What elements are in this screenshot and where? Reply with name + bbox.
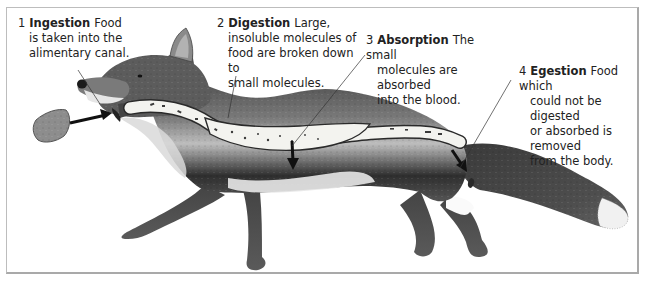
stage-description: into the blood. bbox=[366, 93, 486, 108]
stage-term: Egestion bbox=[530, 64, 586, 78]
stage-description: is taken into the bbox=[18, 31, 130, 46]
stage-description: Food bbox=[94, 16, 122, 30]
stage-description: insoluble molecules of bbox=[217, 31, 357, 46]
stage-description: alimentary canal. bbox=[18, 46, 130, 61]
stage-description: could not be digested bbox=[519, 94, 643, 124]
stage-label-ingestion: 1IngestionFood is taken into the aliment… bbox=[18, 16, 130, 61]
stage-description: small molecules. bbox=[217, 76, 357, 91]
stage-description: or absorbed is removed bbox=[519, 124, 643, 154]
stage-number: 3 bbox=[366, 33, 373, 47]
stage-description: food are broken down to bbox=[217, 46, 357, 76]
stage-description: molecules are absorbed bbox=[366, 63, 486, 93]
stage-number: 4 bbox=[519, 64, 526, 78]
fox-front-legs bbox=[122, 185, 266, 270]
stage-number: 1 bbox=[18, 16, 25, 30]
stage-label-digestion: 2DigestionLarge, insoluble molecules of … bbox=[217, 16, 357, 91]
stage-label-egestion: 4EgestionFood which could not be digeste… bbox=[519, 64, 643, 169]
stage-description: Large, bbox=[294, 16, 330, 30]
stage-term: Digestion bbox=[228, 16, 290, 30]
stage-label-absorption: 3AbsorptionThe small molecules are absor… bbox=[366, 33, 486, 108]
fox-nose bbox=[77, 80, 87, 89]
stage-number: 2 bbox=[217, 16, 224, 30]
ingestion-arrow bbox=[70, 109, 112, 123]
stage-term: Ingestion bbox=[29, 16, 90, 30]
stage-term: Absorption bbox=[377, 33, 448, 47]
stage-description: from the body. bbox=[519, 154, 643, 169]
fox-eye bbox=[138, 74, 143, 77]
